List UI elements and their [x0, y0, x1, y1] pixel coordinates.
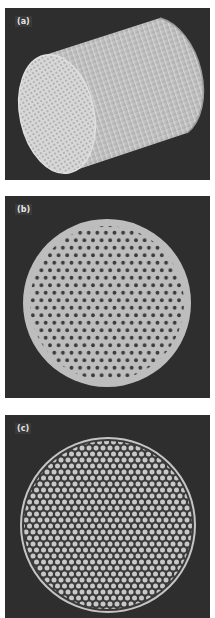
cylinder-illustration [5, 8, 210, 180]
cross-section-lattice [5, 415, 210, 618]
panel-c: (c) [5, 415, 210, 618]
panel-label: (a) [15, 16, 32, 27]
panel-a: (a) [5, 8, 210, 180]
cross-section-holes [5, 196, 210, 398]
panel-label: (b) [15, 204, 32, 215]
panel-b: (b) [5, 196, 210, 398]
panel-label: (c) [15, 423, 31, 434]
